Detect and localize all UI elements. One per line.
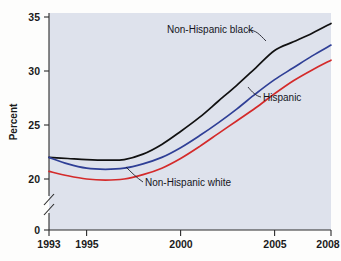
annotation-label-hispanic: Hispanic bbox=[263, 92, 301, 103]
annotation-label-non-hispanic-white: Non-Hispanic white bbox=[145, 177, 232, 188]
line-chart: 35 30 25 20 0 Percent 1993 1995 2000 200… bbox=[0, 0, 341, 261]
annotation-label-non-hispanic-black: Non-Hispanic black bbox=[167, 24, 254, 35]
y-tick-label-20: 20 bbox=[28, 173, 40, 185]
y-axis-title: Percent bbox=[8, 103, 19, 140]
y-tick-label-35: 35 bbox=[28, 11, 40, 23]
x-tick-label-2008: 2008 bbox=[316, 238, 340, 250]
y-tick-label-0: 0 bbox=[34, 224, 40, 236]
x-tick-label-1993: 1993 bbox=[37, 238, 61, 250]
y-tick-label-25: 25 bbox=[28, 119, 40, 131]
x-tick-label-2000: 2000 bbox=[169, 238, 193, 250]
x-tick-label-2005: 2005 bbox=[263, 238, 287, 250]
x-tick-label-1995: 1995 bbox=[75, 238, 99, 250]
plot-area-background bbox=[49, 13, 331, 230]
y-tick-label-30: 30 bbox=[28, 65, 40, 77]
chart-container: 35 30 25 20 0 Percent 1993 1995 2000 200… bbox=[0, 0, 341, 261]
